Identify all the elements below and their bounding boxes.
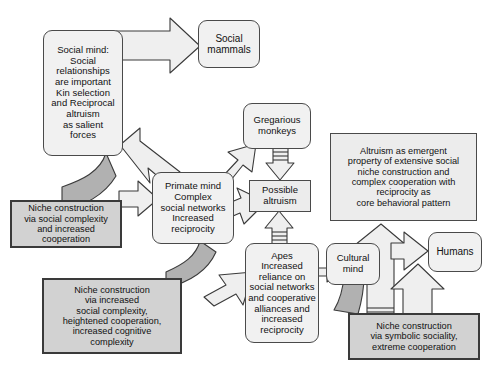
arrow-apes-to-possible-altruism bbox=[265, 211, 293, 244]
arrow-gregarious-to-possible-altruism bbox=[266, 148, 294, 180]
node-social-mind[interactable]: Social mind: Social relationships are im… bbox=[43, 30, 123, 156]
node-niche-increased-complexity[interactable]: Niche construction via increased social … bbox=[42, 278, 182, 354]
node-gregarious-monkeys[interactable]: Gregarious monkeys bbox=[243, 103, 311, 149]
node-apes[interactable]: Apes Increased reliance on social networ… bbox=[245, 243, 319, 343]
node-social-mammals[interactable]: Social mammals bbox=[198, 20, 260, 68]
node-possible-altruism[interactable]: Possible altruism bbox=[249, 180, 311, 212]
node-altruism-emergent[interactable]: Altruism as emergent property of extensi… bbox=[330, 133, 477, 221]
diagram-canvas: Social mind: Social relationships are im… bbox=[0, 0, 488, 374]
node-cultural-mind[interactable]: Cultural mind bbox=[326, 243, 380, 285]
node-niche-social-complexity[interactable]: Niche construction via social complexity… bbox=[10, 200, 122, 248]
node-humans[interactable]: Humans bbox=[428, 232, 482, 272]
node-primate-mind[interactable]: Primate mind Complex social networks Inc… bbox=[152, 172, 234, 244]
arrow-social-mind-to-social-mammals bbox=[116, 18, 200, 73]
node-niche-symbolic[interactable]: Niche construction via symbolic socialit… bbox=[348, 313, 480, 360]
